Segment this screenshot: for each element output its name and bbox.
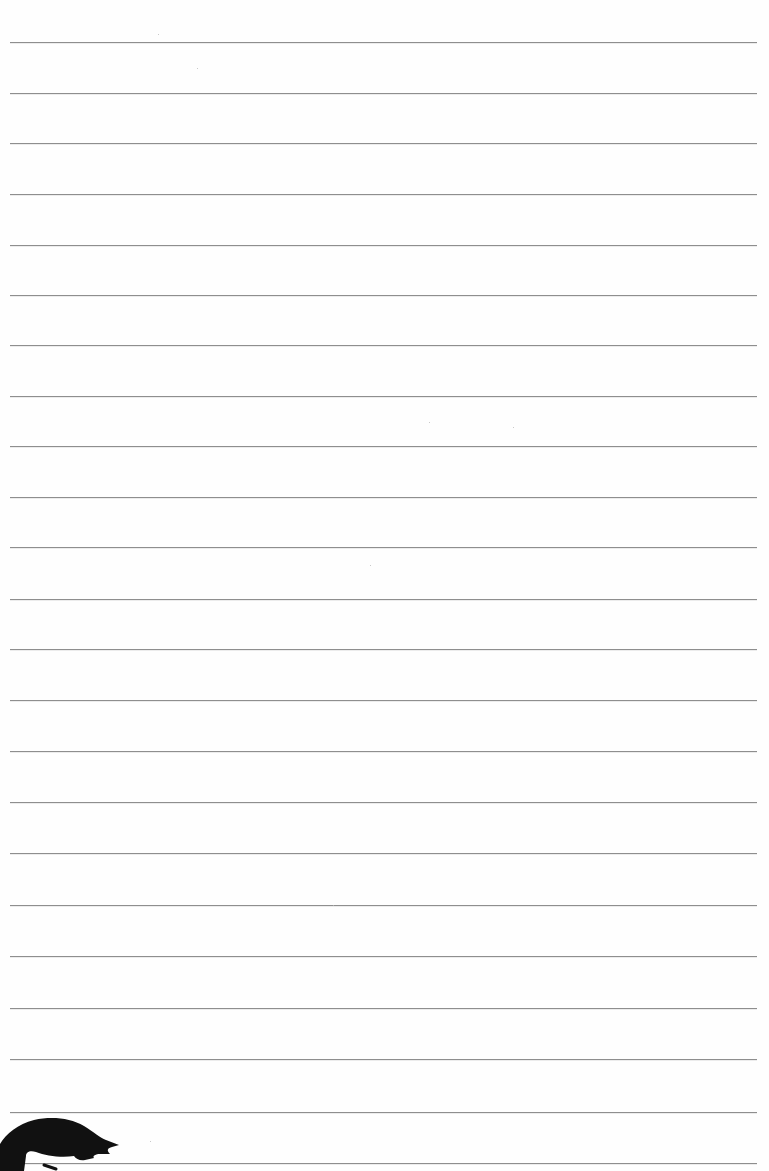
ruled-line [10,751,757,752]
ruled-line [10,1059,757,1060]
paper-speck [197,68,198,69]
paper-speck [150,1141,151,1142]
ruled-line [10,194,757,195]
paper-speck [333,905,334,906]
ruled-line [10,93,757,94]
ruled-line [10,295,757,296]
paper-speck [513,427,514,428]
ruled-line [10,956,757,957]
ruled-line [10,700,757,701]
ruled-line [10,446,757,447]
ruled-line [10,143,757,144]
cartoon-hair-silhouette-icon [0,1110,130,1171]
ruled-line [10,345,757,346]
ruled-line [10,905,757,906]
ruled-line [10,599,757,600]
ruled-line [10,396,757,397]
ruled-line [10,1008,757,1009]
ruled-line [10,547,757,548]
paper-speck [158,34,159,35]
lined-paper-sheet [0,0,769,1171]
ruled-line [10,497,757,498]
ruled-line [10,802,757,803]
paper-speck [429,422,430,423]
ruled-line [10,649,757,650]
ruled-line [10,245,757,246]
ruled-line [10,853,757,854]
ruled-line [10,42,757,43]
paper-speck [370,565,371,566]
